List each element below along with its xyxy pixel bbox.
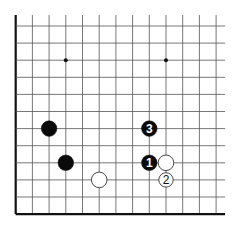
stone-icon [41,121,57,137]
black-stone [58,155,74,171]
go-board: 123 [0,0,243,227]
black-stone-move-1: 1 [142,155,158,171]
move-number-label: 2 [163,173,170,187]
star-point-icon [164,58,168,62]
star-point-icon [64,58,68,62]
stone-icon [58,155,74,171]
white-stone [91,172,107,188]
stone-icon [158,155,174,171]
stone-icon [91,172,107,188]
black-stone [41,121,57,137]
move-number-label: 3 [146,122,153,136]
grid-lines [16,15,225,214]
white-stone [158,155,174,171]
black-stone-move-3: 3 [142,121,158,137]
white-stone-move-2: 2 [159,173,173,187]
stones: 123 [41,121,174,188]
move-number-label: 1 [146,156,153,170]
